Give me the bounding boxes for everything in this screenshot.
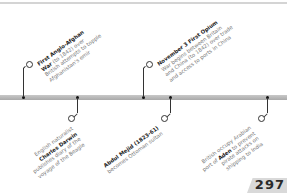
event-marker-1 xyxy=(26,61,33,68)
connector-2 xyxy=(77,98,78,113)
event-marker-5 xyxy=(258,115,265,122)
connector-3-hook xyxy=(143,66,146,69)
connector-1-hook xyxy=(23,66,26,69)
event-label-2: English naturalist Charles Darwin publis… xyxy=(24,125,86,180)
event-label-5: British occupy Arabian port of Aden to p… xyxy=(197,124,264,183)
event-label-1: First Anglo-Afghan War (to 1842) over Br… xyxy=(36,22,107,83)
event-marker-3 xyxy=(146,61,153,68)
connector-3 xyxy=(143,68,144,97)
event-marker-2 xyxy=(68,115,75,122)
connector-4 xyxy=(170,98,171,113)
connector-5 xyxy=(267,98,268,113)
page-number: 297 xyxy=(255,177,285,192)
event-label-3: November 3 First Opium War begins betwee… xyxy=(156,14,238,84)
connector-1 xyxy=(23,68,24,97)
top-rule xyxy=(0,2,287,4)
event-label-4: Abdul Mejid (1823-61) becomes Ottoman su… xyxy=(102,125,164,175)
event-marker-4 xyxy=(161,115,168,122)
